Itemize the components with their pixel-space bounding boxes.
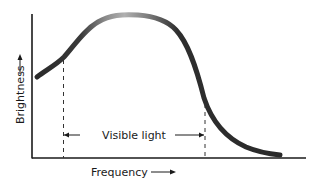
x-axis-label: Frequency [91, 166, 148, 179]
right-arrow-icon [175, 133, 204, 138]
spectrum-diagram: Visible light Frequency Brightness [0, 0, 313, 187]
visible-light-label: Visible light [102, 129, 166, 142]
x-axis-arrow-icon [151, 170, 176, 175]
left-arrow-icon [64, 133, 80, 138]
